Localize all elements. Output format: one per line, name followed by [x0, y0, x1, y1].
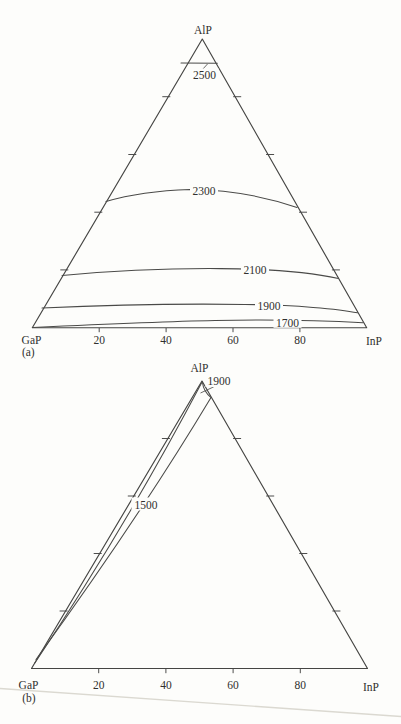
triangle-a-left-edge-ticks [60, 97, 170, 270]
diagram-a: 2500 2300 2100 1900 1700 AlP GaP InP (a)… [22, 24, 382, 360]
lens-b-1900-label: 1900 [208, 375, 231, 387]
panel-b-label: (b) [22, 692, 36, 705]
axis-a-tick-20: 20 [93, 334, 105, 346]
scanned-page: 2500 2300 2100 1900 1700 AlP GaP InP (a)… [0, 0, 401, 724]
phase-diagrams-canvas: 2500 2300 2100 1900 1700 AlP GaP InP (a)… [0, 0, 401, 724]
contour-a-2100-label: 2100 [244, 264, 267, 276]
triangle-a-right-edge-ticks [233, 97, 340, 270]
triangle-b-right-edge-ticks [233, 439, 340, 612]
triangle-a-frame [32, 39, 366, 328]
contour-a-1900-line [42, 304, 358, 313]
corner-a-top-label: AlP [194, 24, 212, 36]
axis-b-tick-40: 40 [160, 679, 172, 691]
lens-b-1500-label: 1500 [135, 499, 158, 511]
axis-b-tick-60: 60 [227, 679, 239, 691]
triangle-b-frame [32, 381, 368, 669]
axis-a-tick-40: 40 [160, 334, 172, 346]
contour-a-1900-label: 1900 [258, 300, 281, 312]
contour-a-2300-label: 2300 [193, 185, 216, 197]
panel-a-label: (a) [22, 346, 35, 359]
corner-b-right-label: InP [363, 681, 379, 693]
lens-b-1900-leader [201, 387, 214, 393]
axis-b-tick-80: 80 [295, 679, 307, 691]
axis-a-tick-80: 80 [294, 334, 306, 346]
page-edge-artifact-line [0, 689, 401, 717]
contour-a-2100-line [62, 269, 339, 279]
contour-a-2500-label: 2500 [193, 69, 216, 81]
corner-b-left-label: GaP [19, 679, 39, 691]
corner-a-left-label: GaP [22, 334, 42, 346]
corner-a-right-label: InP [366, 335, 382, 347]
triangle-b-left-edge-ticks [60, 439, 170, 612]
contour-a-1700-line [33, 320, 363, 327]
axis-a-tick-60: 60 [227, 334, 239, 346]
lens-b-lower-boundary [36, 398, 211, 660]
triangle-a-bottom-axis-ticks [99, 328, 300, 332]
axis-b-tick-20: 20 [93, 679, 105, 691]
corner-b-top-label: AlP [191, 362, 209, 374]
triangle-b-bottom-axis-ticks [99, 669, 301, 673]
diagram-b: 1900 1500 AlP GaP InP (b) 20 40 60 80 [19, 362, 379, 704]
contour-a-1700-label: 1700 [276, 317, 299, 329]
